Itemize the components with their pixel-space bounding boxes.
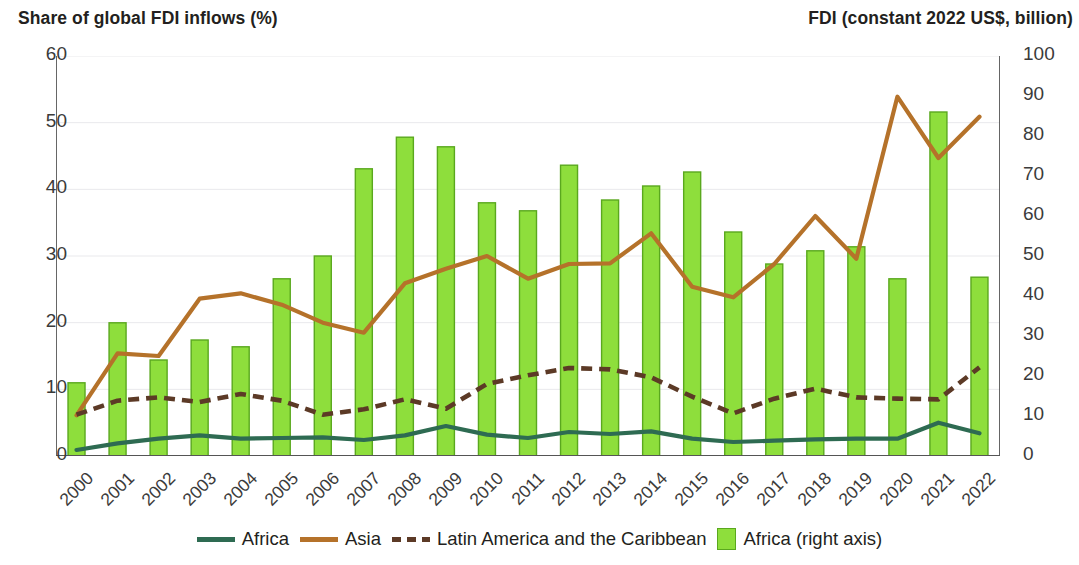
bar-2011 <box>520 211 537 456</box>
y-tick-label-right: 60 <box>1023 203 1079 225</box>
y-tick-label-right: 50 <box>1023 243 1079 265</box>
bar-2012 <box>561 165 578 456</box>
bar-2020 <box>889 279 906 456</box>
bar-2022 <box>971 277 988 456</box>
y-tick-label-right: 100 <box>1023 43 1079 65</box>
y-tick-label-left: 10 <box>7 376 67 398</box>
bar-2010 <box>478 203 495 456</box>
bar-2007 <box>355 169 372 456</box>
legend-dashed-line-swatch <box>392 537 430 542</box>
bar-2016 <box>725 232 742 456</box>
y-tick-label-left: 20 <box>7 310 67 332</box>
y-tick-label-left: 50 <box>7 110 67 132</box>
y-tick-label-right: 70 <box>1023 163 1079 185</box>
legend-label: Africa <box>242 528 289 550</box>
legend-label: Africa (right axis) <box>743 528 882 550</box>
bar-2001 <box>109 323 126 456</box>
bar-2017 <box>766 264 783 456</box>
legend-line-swatch <box>300 537 338 542</box>
y-tick-label-left: 30 <box>7 243 67 265</box>
y-tick-label-right: 10 <box>1023 403 1079 425</box>
legend-item-africa-right-axis[interactable]: Africa (right axis) <box>717 528 882 550</box>
bar-2021 <box>930 112 947 456</box>
bar-2015 <box>684 172 701 456</box>
bar-2018 <box>807 251 824 456</box>
y-tick-label-right: 20 <box>1023 363 1079 385</box>
bar-2002 <box>150 360 167 456</box>
chart-svg <box>56 56 1000 456</box>
chart-root: Share of global FDI inflows (%) FDI (con… <box>0 0 1079 565</box>
y-tick-label-left: 40 <box>7 176 67 198</box>
y-tick-label-right: 30 <box>1023 323 1079 345</box>
legend-item-africa[interactable]: Africa <box>197 528 289 550</box>
y-tick-label-right: 80 <box>1023 123 1079 145</box>
bar-2003 <box>191 340 208 456</box>
left-axis-title: Share of global FDI inflows (%) <box>18 8 278 29</box>
right-axis-title: FDI (constant 2022 US$, billion) <box>808 8 1073 29</box>
y-tick-label-right: 90 <box>1023 83 1079 105</box>
legend-item-asia[interactable]: Asia <box>300 528 381 550</box>
plot-area <box>56 56 1000 456</box>
legend-label: Asia <box>345 528 381 550</box>
legend-item-latin-america-and-the-caribbean[interactable]: Latin America and the Caribbean <box>392 528 706 550</box>
bar-2019 <box>848 247 865 456</box>
chart-legend: AfricaAsiaLatin America and the Caribbea… <box>0 528 1079 550</box>
legend-label: Latin America and the Caribbean <box>437 528 706 550</box>
y-tick-label-right: 40 <box>1023 283 1079 305</box>
y-tick-label-left: 60 <box>7 43 67 65</box>
y-tick-label-left: 0 <box>7 443 67 465</box>
bar-2006 <box>314 256 331 456</box>
bar-2000 <box>68 383 85 456</box>
bar-2008 <box>396 137 413 456</box>
y-tick-label-right: 0 <box>1023 443 1079 465</box>
legend-line-swatch <box>197 537 235 542</box>
legend-bar-swatch <box>717 528 736 550</box>
bar-2013 <box>602 200 619 456</box>
bar-2014 <box>643 186 660 456</box>
